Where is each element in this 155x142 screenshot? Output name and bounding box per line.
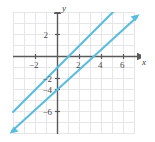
line-with-arrowheads [10,14,140,134]
y-tick-label-neg4: −4 [42,85,52,95]
x-tick-label-4: 4 [98,60,103,70]
y-tick-label-neg6: −6 [42,107,52,117]
coordinate-plane-svg: x y −2 2 4 6 2 −2 −4 −6 [0,0,155,142]
y-axis-label: y [61,3,66,13]
x-tick-label-neg2: −2 [29,60,39,70]
top-mask [0,0,155,12]
grid-horizontal-lines [13,13,135,134]
left-mask [0,0,8,142]
y-tick-label-2: 2 [44,30,49,40]
right-mask [141,0,155,142]
x-tick-label-2: 2 [76,60,81,70]
x-tick-label-6: 6 [120,60,125,70]
x-axis-label: x [141,57,146,67]
grid-vertical-lines [14,12,135,134]
y-tick-label-neg2: −2 [42,74,52,84]
bottom-mask [0,134,155,142]
graph-figure: x y −2 2 4 6 2 −2 −4 −6 [0,0,155,142]
